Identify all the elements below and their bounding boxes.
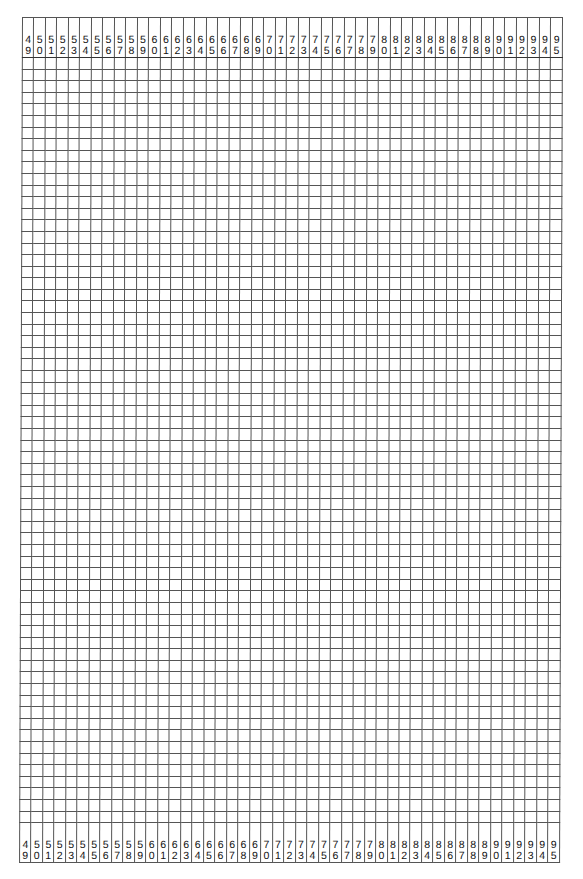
grid-cell[interactable] — [378, 255, 390, 267]
grid-cell[interactable] — [446, 301, 458, 313]
grid-cell[interactable] — [124, 510, 136, 522]
grid-cell[interactable] — [101, 649, 113, 661]
grid-cell[interactable] — [56, 197, 68, 209]
grid-cell[interactable] — [206, 208, 218, 220]
grid-cell[interactable] — [433, 800, 445, 812]
grid-cell[interactable] — [32, 452, 44, 464]
grid-cell[interactable] — [343, 301, 355, 313]
grid-cell[interactable] — [274, 452, 286, 464]
grid-cell[interactable] — [125, 220, 137, 232]
grid-cell[interactable] — [250, 579, 262, 591]
grid-cell[interactable] — [468, 556, 480, 568]
grid-cell[interactable] — [458, 394, 470, 406]
grid-cell[interactable] — [102, 278, 114, 290]
grid-cell[interactable] — [229, 104, 241, 116]
grid-cell[interactable] — [31, 788, 43, 800]
grid-cell[interactable] — [343, 289, 355, 301]
grid-cell[interactable] — [66, 614, 78, 626]
grid-cell[interactable] — [66, 718, 78, 730]
grid-cell[interactable] — [366, 208, 378, 220]
grid-cell[interactable] — [308, 521, 320, 533]
grid-cell[interactable] — [321, 115, 333, 127]
grid-cell[interactable] — [89, 672, 101, 684]
grid-cell[interactable] — [33, 429, 45, 441]
grid-cell[interactable] — [549, 533, 561, 545]
grid-cell[interactable] — [504, 127, 516, 139]
grid-cell[interactable] — [252, 69, 264, 81]
grid-cell[interactable] — [146, 684, 158, 696]
grid-cell[interactable] — [401, 104, 413, 116]
grid-cell[interactable] — [447, 150, 459, 162]
grid-cell[interactable] — [401, 92, 413, 104]
grid-cell[interactable] — [113, 371, 125, 383]
grid-cell[interactable] — [21, 452, 33, 464]
grid-cell[interactable] — [469, 382, 481, 394]
grid-cell[interactable] — [126, 58, 138, 70]
grid-cell[interactable] — [263, 92, 275, 104]
grid-cell[interactable] — [320, 359, 332, 371]
grid-cell[interactable] — [216, 498, 228, 510]
grid-cell[interactable] — [355, 127, 367, 139]
grid-cell[interactable] — [492, 440, 504, 452]
grid-cell[interactable] — [137, 197, 149, 209]
grid-cell[interactable] — [137, 150, 149, 162]
grid-cell[interactable] — [307, 753, 319, 765]
grid-cell[interactable] — [158, 811, 170, 823]
grid-cell[interactable] — [170, 498, 182, 510]
grid-cell[interactable] — [216, 405, 228, 417]
grid-cell[interactable] — [364, 788, 376, 800]
grid-cell[interactable] — [456, 776, 468, 788]
grid-cell[interactable] — [388, 568, 400, 580]
grid-cell[interactable] — [32, 544, 44, 556]
grid-cell[interactable] — [355, 104, 367, 116]
grid-cell[interactable] — [34, 69, 46, 81]
grid-cell[interactable] — [366, 162, 378, 174]
grid-cell[interactable] — [468, 742, 480, 754]
grid-cell[interactable] — [90, 313, 102, 325]
grid-cell[interactable] — [434, 452, 446, 464]
grid-cell[interactable] — [228, 289, 240, 301]
grid-cell[interactable] — [147, 521, 159, 533]
grid-cell[interactable] — [101, 486, 113, 498]
grid-cell[interactable] — [424, 255, 436, 267]
grid-cell[interactable] — [308, 568, 320, 580]
grid-cell[interactable] — [183, 220, 195, 232]
grid-cell[interactable] — [273, 660, 285, 672]
grid-cell[interactable] — [307, 707, 319, 719]
grid-cell[interactable] — [343, 220, 355, 232]
grid-cell[interactable] — [468, 602, 480, 614]
grid-cell[interactable] — [124, 556, 136, 568]
grid-cell[interactable] — [492, 266, 504, 278]
grid-cell[interactable] — [239, 544, 251, 556]
grid-cell[interactable] — [331, 486, 343, 498]
grid-cell[interactable] — [206, 139, 218, 151]
grid-cell[interactable] — [148, 115, 160, 127]
grid-cell[interactable] — [262, 359, 274, 371]
grid-cell[interactable] — [458, 220, 470, 232]
grid-cell[interactable] — [411, 544, 423, 556]
grid-cell[interactable] — [481, 324, 493, 336]
grid-cell[interactable] — [204, 614, 216, 626]
grid-cell[interactable] — [124, 591, 136, 603]
grid-cell[interactable] — [307, 765, 319, 777]
grid-cell[interactable] — [183, 115, 195, 127]
grid-cell[interactable] — [272, 800, 284, 812]
grid-cell[interactable] — [480, 672, 492, 684]
grid-cell[interactable] — [445, 568, 457, 580]
grid-cell[interactable] — [89, 637, 101, 649]
grid-cell[interactable] — [285, 568, 297, 580]
grid-cell[interactable] — [539, 139, 551, 151]
grid-cell[interactable] — [160, 197, 172, 209]
grid-cell[interactable] — [217, 336, 229, 348]
grid-cell[interactable] — [307, 811, 319, 823]
grid-cell[interactable] — [68, 231, 80, 243]
grid-cell[interactable] — [526, 521, 538, 533]
grid-cell[interactable] — [89, 788, 101, 800]
grid-cell[interactable] — [399, 591, 411, 603]
grid-cell[interactable] — [528, 58, 540, 70]
grid-cell[interactable] — [91, 208, 103, 220]
grid-cell[interactable] — [171, 173, 183, 185]
grid-cell[interactable] — [365, 521, 377, 533]
grid-cell[interactable] — [101, 510, 113, 522]
grid-cell[interactable] — [343, 313, 355, 325]
